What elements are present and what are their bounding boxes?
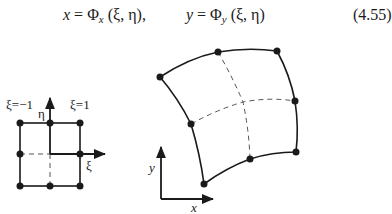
label-xi-minus-one: ξ=−1 [6,97,33,112]
reference-element: ξ=−1 ξ=1 η ξ [6,97,105,190]
label-eta: η [38,106,45,121]
label-xi-one: ξ=1 [70,97,90,112]
physical-nodes [157,48,300,188]
physical-boundary [160,49,297,184]
label-x: x [190,200,197,214]
label-y: y [147,160,155,175]
physical-element [157,48,300,188]
physical-dash-eta [218,52,250,159]
label-xi: ξ [86,158,92,173]
